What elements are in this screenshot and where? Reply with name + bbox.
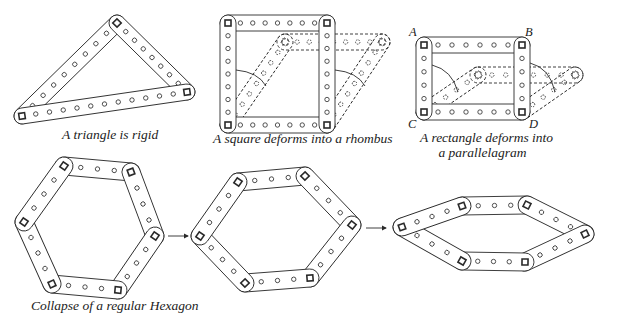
regular-hexagon-figure — [11, 153, 167, 302]
hole-icon — [275, 49, 281, 55]
hole-icon — [268, 60, 274, 66]
strip-bar — [416, 37, 530, 53]
triangle-figure — [11, 12, 199, 128]
skewed-hexagon-figure — [187, 163, 364, 295]
hole-icon — [343, 40, 347, 44]
strip-bar — [220, 15, 335, 31]
strip-bar — [514, 37, 530, 120]
hexagon-caption: Collapse of a regular Hexagon — [31, 298, 198, 314]
hole-icon — [356, 40, 360, 44]
hole-icon — [490, 73, 494, 77]
hole-icon — [561, 79, 567, 85]
hole-icon — [261, 70, 267, 76]
vertex-label-b: B — [525, 25, 533, 40]
strip-bar — [319, 15, 335, 133]
rectangle-caption-line1: A rectangle deforms into — [420, 130, 545, 145]
hole-icon — [307, 40, 311, 44]
hole-icon — [540, 94, 546, 100]
deformation-arcs — [236, 63, 555, 92]
vertex-label-d: D — [529, 117, 538, 132]
hole-icon — [464, 79, 470, 85]
vertex-label-c: C — [408, 117, 416, 132]
linkage-diagram — [0, 0, 617, 323]
strip-bar — [187, 169, 250, 248]
hole-icon — [504, 73, 508, 77]
hole-icon — [239, 101, 245, 107]
hole-icon — [345, 91, 351, 97]
strip-bar — [391, 195, 474, 239]
strip-bar — [416, 37, 432, 120]
hole-icon — [358, 70, 364, 76]
hole-icon — [443, 94, 449, 100]
strip-bar — [416, 104, 530, 120]
rectangle-figure — [413, 37, 586, 123]
hole-icon — [530, 102, 536, 108]
triangle-caption: A triangle is rigid — [62, 127, 158, 143]
hole-icon — [365, 60, 371, 66]
rectangle-caption-line2: a parallelagram — [420, 145, 545, 160]
rectangle-caption: A rectangle deforms into a parallelagram — [420, 130, 545, 160]
angle-arc — [335, 70, 365, 86]
strip-bar — [11, 153, 76, 234]
collapsed-hexagon-figure — [390, 193, 597, 274]
strip-bar — [220, 15, 236, 133]
square-caption: A square deforms into a rhombus — [213, 131, 392, 147]
hole-icon — [253, 80, 259, 86]
square-figure — [217, 15, 393, 136]
hole-icon — [246, 91, 252, 97]
hole-icon — [531, 73, 535, 77]
hole-icon — [338, 101, 344, 107]
hole-icon — [295, 40, 299, 44]
vertex-label-a: A — [409, 25, 417, 40]
hole-icon — [351, 80, 357, 86]
